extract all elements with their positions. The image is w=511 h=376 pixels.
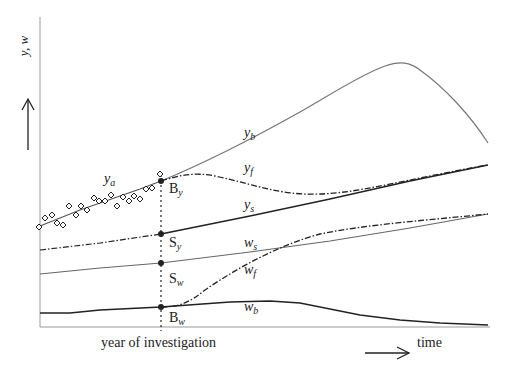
label-w-f: wf (244, 263, 256, 279)
point-s-w (158, 260, 164, 266)
yield-projection-diagram (0, 0, 511, 376)
point-b-w (158, 304, 164, 310)
time-axis-label: time (417, 336, 442, 350)
curve-y-b (161, 63, 488, 181)
curve-y-s-history (40, 234, 161, 250)
y-axis-arrow-icon (22, 99, 34, 150)
label-w-s: ws (244, 236, 257, 252)
curve-w-s (40, 214, 488, 274)
label-b-w: Bw (169, 311, 185, 327)
time-arrow-icon (365, 347, 409, 359)
investigation-year-label: year of investigation (101, 336, 216, 350)
curve-w-f (161, 214, 488, 307)
point-b-y (158, 178, 164, 184)
label-s-y: Sy (169, 236, 181, 252)
curve-y-a (40, 181, 161, 226)
label-y-b: yb (244, 126, 255, 142)
curve-y-f (161, 165, 488, 194)
label-y-f: yf (244, 161, 253, 177)
label-s-w: Sw (169, 272, 183, 288)
label-b-y: By (169, 182, 183, 198)
label-w-b: wb (244, 300, 258, 316)
observation-markers (36, 171, 163, 230)
curve-w-b (40, 301, 488, 325)
point-s-y (158, 231, 164, 237)
label-y-a: ya (104, 172, 115, 188)
y-axis-label: y, w (16, 26, 32, 66)
label-y-s: ys (244, 198, 254, 214)
